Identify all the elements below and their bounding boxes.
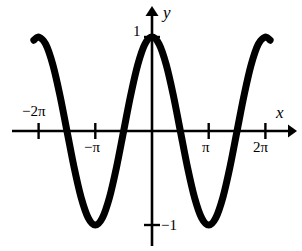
y-axis-arrowhead bbox=[146, 6, 159, 16]
y-tick-label-one: 1 bbox=[133, 24, 141, 39]
x-tick-label-2pi: 2π bbox=[253, 140, 268, 155]
x-tick-label-pi: π bbox=[202, 140, 210, 155]
plot-canvas bbox=[0, 0, 302, 251]
x-axis-arrowhead bbox=[288, 125, 297, 138]
x-tick-label-neg-pi: −π bbox=[84, 140, 100, 155]
x-tick-label-neg-2pi: −2π bbox=[22, 104, 46, 119]
x-axis-label: x bbox=[276, 104, 284, 121]
cosine-graph-figure: y x −2π −π π 2π 1 −1 bbox=[0, 0, 302, 251]
y-tick-label-neg-one: −1 bbox=[161, 218, 177, 233]
y-axis-label: y bbox=[163, 4, 171, 21]
